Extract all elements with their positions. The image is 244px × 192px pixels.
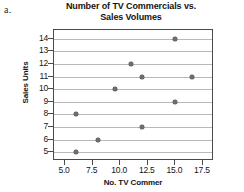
x-tick-label: 15.0 xyxy=(159,165,189,175)
x-axis-label: No. TV Commer xyxy=(53,178,213,187)
y-tick-label: 8 xyxy=(4,108,48,118)
y-tick-label: 9 xyxy=(4,96,48,106)
gridline xyxy=(54,140,212,141)
chart-title-line-2: Sales Volumes xyxy=(40,12,222,23)
chart-title-line-1: Number of TV Commercials vs. xyxy=(66,1,196,11)
data-point xyxy=(140,125,144,129)
y-tick-label: 5 xyxy=(4,146,48,156)
x-tick-label: 12.5 xyxy=(132,165,162,175)
x-tick-label: 7.5 xyxy=(77,165,107,175)
y-tick-label: 10 xyxy=(4,83,48,93)
data-point xyxy=(96,138,100,142)
gridline xyxy=(54,127,212,128)
gridline xyxy=(54,39,212,40)
data-point xyxy=(173,100,177,104)
y-tick-label: 6 xyxy=(4,134,48,144)
data-point xyxy=(140,75,144,79)
x-tick-label: 5.0 xyxy=(49,165,79,175)
x-tick-label: 17.5 xyxy=(187,165,217,175)
y-tick-label: 12 xyxy=(4,58,48,68)
x-tick-label: 10.0 xyxy=(104,165,134,175)
y-tick-label: 13 xyxy=(4,45,48,55)
data-point xyxy=(74,112,78,116)
data-point xyxy=(74,150,78,154)
y-tick-label: 7 xyxy=(4,121,48,131)
data-point xyxy=(190,75,194,79)
gridline xyxy=(54,102,212,103)
figure: a. Number of TV Commercials vs. Sales Vo… xyxy=(0,0,244,192)
data-point xyxy=(129,62,133,66)
y-tick-label: 14 xyxy=(4,33,48,43)
gridline xyxy=(54,89,212,90)
data-point xyxy=(173,37,177,41)
chart-title: Number of TV Commercials vs. Sales Volum… xyxy=(40,1,222,23)
plot-area xyxy=(53,29,213,160)
data-point xyxy=(113,87,117,91)
gridline xyxy=(54,64,212,65)
y-tick-label: 11 xyxy=(4,71,48,81)
gridline xyxy=(54,77,212,78)
y-axis-tick-labels: 567891011121314 xyxy=(0,0,48,192)
gridline xyxy=(54,51,212,52)
